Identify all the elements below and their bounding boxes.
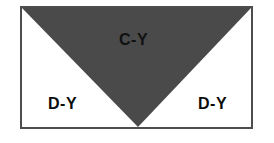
region-label-c-y: C-Y bbox=[119, 32, 148, 48]
diagram-frame: C-Y D-Y D-Y bbox=[20, 6, 253, 129]
region-label-d-y-right: D-Y bbox=[198, 96, 227, 112]
diagram-root: C-Y D-Y D-Y bbox=[0, 0, 274, 143]
diagram-plot-area: C-Y D-Y D-Y bbox=[22, 8, 251, 127]
region-label-d-y-left: D-Y bbox=[48, 96, 77, 112]
